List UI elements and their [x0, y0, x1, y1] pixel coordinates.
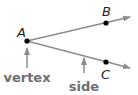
angle-diagram: A B C vertex side [0, 0, 138, 95]
vertex-label: vertex [3, 70, 51, 85]
point-a-label: A [16, 25, 26, 40]
side-label: side [69, 79, 99, 94]
ray-ab [27, 17, 130, 41]
point-c-label: C [101, 67, 111, 82]
point-c-dot [103, 59, 108, 64]
diagram-svg: A B C vertex side [0, 0, 138, 95]
point-b-dot [103, 20, 108, 25]
ray-ac [27, 41, 130, 68]
point-b-label: B [102, 4, 111, 19]
